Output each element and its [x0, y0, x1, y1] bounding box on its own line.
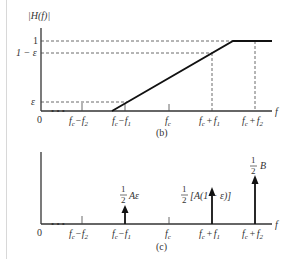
arrow-up-icon [122, 205, 129, 213]
b-caption: (b) [156, 127, 168, 139]
impulse-label-a-eps: 1 2 Aε [120, 184, 139, 205]
svg-text:fc: fc [165, 228, 172, 241]
b-xtick-label-fc-minus-f2: fc−f2 [69, 115, 88, 128]
svg-text:1: 1 [251, 155, 256, 165]
svg-text:B: B [260, 160, 266, 171]
b-ylabel: |H(f)| [28, 10, 50, 22]
svg-text:1: 1 [121, 184, 126, 194]
b-xtick-label-fc-minus-f1: fc−f1 [112, 115, 131, 128]
panel-b: • • • |H(f)| 1 1 − ε ε 0 fc−f2 fc−f1 fc … [16, 10, 279, 139]
svg-text:1: 1 [182, 184, 187, 194]
svg-text:2: 2 [182, 195, 187, 205]
c-xtick-label-fc-plus-f2: fc+f2 [242, 228, 263, 241]
arrow-up-icon [252, 175, 259, 184]
svg-text:[A(1 − ε)]: [A(1 − ε)] [190, 190, 231, 202]
b-x-origin: 0 [37, 114, 42, 125]
c-x-origin: 0 [37, 227, 42, 238]
b-xlabel-f: f [275, 106, 279, 117]
b-axis-dots: • • • [51, 106, 65, 116]
b-xtick-label-fc-plus-f2: fc+f2 [242, 115, 263, 128]
svg-text:fc+f1: fc+f1 [199, 115, 220, 128]
impulse-label-b: 1 2 B [250, 155, 266, 176]
c-xlabel-f: f [275, 219, 279, 230]
svg-text:2: 2 [121, 195, 126, 205]
impulse-fc-minus-f1 [122, 205, 129, 224]
impulse-fc-plus-f2 [252, 175, 259, 224]
panel-c: • • • 1 2 Aε 1 2 [A(1 − ε)] [37, 152, 279, 253]
c-xtick-label-fc-plus-f1: fc+f1 [199, 228, 220, 241]
svg-text:fc−f2: fc−f2 [69, 115, 88, 128]
frequency-response-diagram: • • • |H(f)| 1 1 − ε ε 0 fc−f2 fc−f1 fc … [0, 0, 292, 259]
b-ytick-eps: ε [31, 96, 35, 107]
svg-text:Aε: Aε [128, 190, 139, 201]
svg-text:fc−f1: fc−f1 [112, 115, 131, 128]
impulse-label-a-1-minus-eps: 1 2 [A(1 − ε)] [181, 184, 231, 205]
b-ytick-1-minus-eps: 1 − ε [16, 47, 37, 58]
svg-text:fc−f2: fc−f2 [69, 228, 88, 241]
svg-text:fc+f2: fc+f2 [242, 228, 263, 241]
b-response-curve [112, 41, 272, 111]
c-xtick-label-fc: fc [165, 228, 172, 241]
svg-text:fc+f1: fc+f1 [199, 228, 220, 241]
b-xtick-label-fc-plus-f1: fc+f1 [199, 115, 220, 128]
c-xtick-label-fc-minus-f2: fc−f2 [69, 228, 88, 241]
svg-text:fc−f1: fc−f1 [112, 228, 131, 241]
svg-text:fc+f2: fc+f2 [242, 115, 263, 128]
svg-text:2: 2 [251, 166, 256, 176]
c-axis-dots: • • • [51, 219, 65, 229]
c-caption: (c) [156, 241, 167, 253]
b-ytick-1: 1 [33, 35, 38, 46]
c-xtick-label-fc-minus-f1: fc−f1 [112, 228, 131, 241]
